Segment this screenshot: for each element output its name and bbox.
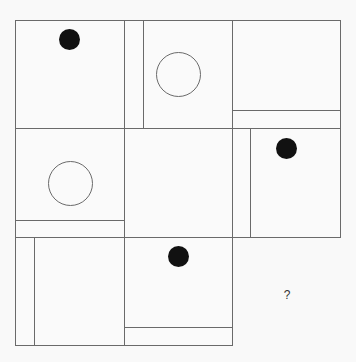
cell-r3c2 — [124, 237, 233, 346]
filled-dot-icon — [59, 29, 80, 50]
hollow-circle-icon — [156, 52, 201, 97]
cell-r3c3-missing[interactable]: ? — [232, 237, 341, 346]
cell-r2c2 — [124, 128, 233, 238]
cell-r1c3 — [232, 20, 341, 129]
vertical-divider — [143, 21, 144, 128]
filled-dot-icon — [168, 246, 189, 267]
filled-dot-icon — [276, 138, 297, 159]
question-mark: ? — [284, 288, 291, 302]
cell-r2c3 — [232, 128, 341, 238]
cell-r1c1 — [15, 20, 125, 129]
horizontal-divider — [233, 110, 340, 111]
vertical-divider — [250, 129, 251, 237]
vertical-divider — [34, 238, 35, 345]
cell-r2c1 — [15, 128, 125, 238]
cell-r3c1 — [15, 237, 125, 346]
cell-r1c2 — [124, 20, 233, 129]
horizontal-divider — [125, 327, 232, 328]
hollow-circle-icon — [48, 161, 93, 206]
horizontal-divider — [16, 220, 124, 221]
